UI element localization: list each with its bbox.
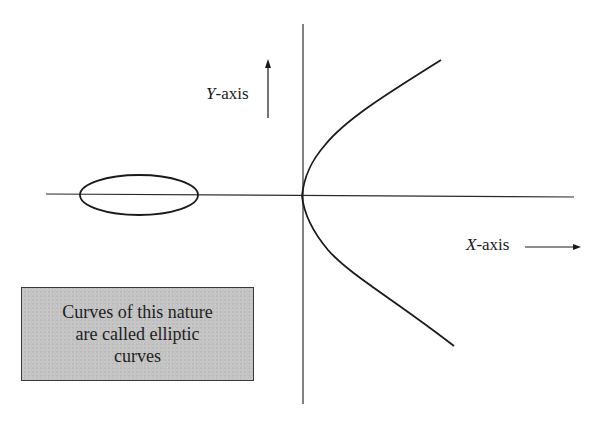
note-line: curves <box>38 345 238 367</box>
y-axis-suffix: -axis <box>215 84 248 103</box>
note-line: Curves of this nature <box>38 301 238 323</box>
x-axis-variable: X <box>466 235 476 254</box>
arrow-right-icon <box>573 244 581 250</box>
x-axis-suffix: -axis <box>476 235 509 254</box>
note-text: Curves of this nature are called ellipti… <box>38 301 238 367</box>
curve-upper-branch <box>302 60 441 196</box>
horizontal-axis-line <box>46 194 574 197</box>
arrow-up-icon <box>265 59 271 68</box>
note-line: are called elliptic <box>38 323 238 345</box>
curve-lower-branch <box>302 196 454 346</box>
note-box: Curves of this nature are called ellipti… <box>21 287 254 381</box>
y-axis-label: Y-axis <box>206 84 249 104</box>
x-axis-label: X-axis <box>466 235 509 255</box>
